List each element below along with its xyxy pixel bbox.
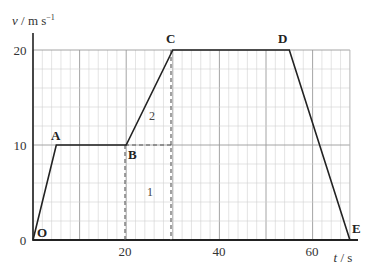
point-label-d: D — [278, 31, 287, 46]
x-axis-label: t / s — [334, 250, 353, 265]
velocity-time-graph: 0 10 20 20 40 60 v / m s−1 t / s O A B C… — [0, 0, 374, 274]
y-tick-20: 20 — [14, 43, 27, 58]
x-tick-20: 20 — [119, 244, 132, 259]
x-tick-40: 40 — [213, 244, 226, 259]
point-label-a: A — [51, 128, 61, 143]
region-label-2: 2 — [149, 109, 155, 123]
x-tick-60: 60 — [306, 244, 319, 259]
point-label-b: B — [128, 147, 137, 162]
point-label-c: C — [166, 31, 175, 46]
y-tick-10: 10 — [14, 138, 27, 153]
region-label-1: 1 — [147, 185, 153, 199]
point-label-o: O — [37, 225, 47, 240]
y-axis-label: v / m s−1 — [12, 13, 55, 28]
y-tick-0: 0 — [20, 233, 27, 248]
point-label-e: E — [352, 221, 361, 236]
